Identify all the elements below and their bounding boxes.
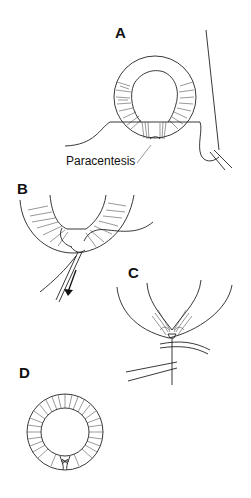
panel-label-c: C <box>128 265 139 280</box>
panel-c-iris-closure <box>117 280 232 385</box>
paracentesis-caption: Paracentesis <box>66 155 135 167</box>
panel-label-a: A <box>115 25 126 40</box>
panel-d-iris-ring-final <box>27 394 103 470</box>
panel-label-b: B <box>17 181 28 196</box>
panel-b-iris-section <box>20 195 153 302</box>
panel-a-iris-ring <box>65 30 232 170</box>
illustration-drawing <box>0 0 251 498</box>
surgical-illustration-figure: A Paracentesis B C D <box>0 0 251 498</box>
panel-label-d: D <box>19 365 30 380</box>
